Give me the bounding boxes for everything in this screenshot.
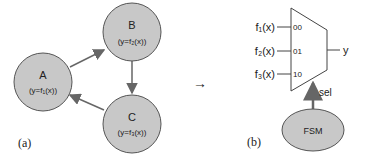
- mux-output-label: y: [343, 44, 349, 56]
- transform-arrow-icon: →: [193, 75, 207, 91]
- caption-a: (a): [18, 136, 31, 150]
- caption-b: (b): [247, 135, 261, 149]
- state-a: A (y=f₁(x)): [14, 53, 72, 111]
- state-b-func: (y=f₂(x)): [118, 37, 147, 46]
- state-c-func: (y=f₃(x)): [118, 128, 147, 137]
- mux-code-3: 10: [293, 70, 302, 79]
- mux-input-2-label: f₂(x): [255, 45, 275, 57]
- state-diagram-a: A (y=f₁(x)) B (y=f₂(x)) C (y=f₃(x)) (a): [14, 3, 161, 153]
- state-a-func: (y=f₁(x)): [29, 86, 58, 95]
- state-b: B (y=f₂(x)): [103, 3, 161, 61]
- fsm-label: FSM: [304, 126, 323, 136]
- mux-input-3-label: f₃(x): [255, 68, 275, 80]
- transition-c-to-a: [70, 95, 104, 110]
- state-c-name: C: [128, 111, 136, 123]
- mux-input-1-label: f₁(x): [255, 21, 275, 33]
- select-label: sel: [319, 87, 332, 98]
- diagram-canvas: A (y=f₁(x)) B (y=f₂(x)) C (y=f₃(x)) (a) …: [0, 0, 365, 162]
- state-a-name: A: [39, 69, 47, 81]
- mux-diagram-b: f₁(x) f₂(x) f₃(x) 00 01 10 y sel FSM (b): [247, 8, 349, 151]
- transition-a-to-b: [70, 50, 104, 67]
- mux-code-2: 01: [293, 47, 302, 56]
- mux-code-1: 00: [293, 23, 302, 32]
- state-c: C (y=f₃(x)): [103, 95, 161, 153]
- state-b-name: B: [128, 19, 135, 31]
